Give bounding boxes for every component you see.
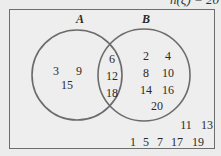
element-only-b: 8 (143, 67, 149, 79)
element-only-b: 2 (143, 50, 149, 62)
element-intersection: 18 (106, 87, 118, 99)
element-neither: 7 (157, 136, 163, 148)
element-neither: 13 (201, 119, 213, 131)
element-only-b: 14 (140, 84, 152, 96)
element-only-b: 4 (165, 50, 171, 62)
element-only-a: 15 (61, 79, 73, 91)
set-b-label: B (142, 12, 150, 27)
element-intersection: 6 (109, 53, 115, 65)
element-neither: 5 (143, 136, 149, 148)
set-a-label: A (76, 12, 84, 27)
element-only-b: 16 (162, 84, 174, 96)
element-only-b: 10 (162, 67, 174, 79)
element-only-b: 20 (151, 100, 163, 112)
element-neither: 17 (171, 136, 183, 148)
element-neither: 19 (192, 136, 204, 148)
element-neither: 11 (180, 119, 192, 131)
element-intersection: 12 (106, 70, 118, 82)
element-only-a: 9 (76, 65, 82, 77)
element-neither: 1 (130, 136, 136, 148)
element-only-a: 3 (53, 65, 59, 77)
